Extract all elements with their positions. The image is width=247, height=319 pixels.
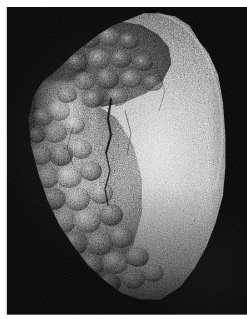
specimen-photograph <box>7 7 247 315</box>
rock-specimen <box>7 7 247 315</box>
rim-highlight <box>7 7 247 315</box>
page-margin-top <box>0 0 247 7</box>
page-margin-bottom <box>0 315 247 319</box>
plate-edge-line-left <box>6 7 7 315</box>
page-root: Grayscale photograph of an angular rock … <box>0 0 247 319</box>
plate-edge-line-bottom <box>7 314 247 315</box>
